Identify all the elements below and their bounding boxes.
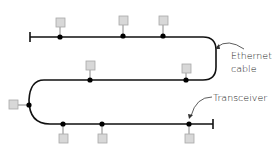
station-box	[98, 134, 107, 143]
transceiver-dot	[120, 33, 125, 38]
transceiver-dot	[183, 77, 188, 82]
station-3	[159, 16, 168, 39]
station-2	[119, 16, 128, 39]
station-box	[9, 100, 18, 109]
transceiver-dot	[57, 34, 62, 39]
transceiver-dot	[99, 121, 104, 126]
transceiver-dot	[160, 33, 165, 38]
station-box	[119, 16, 128, 25]
transceiver-arrow	[191, 97, 212, 116]
station-box	[159, 16, 168, 25]
transceiver-dot	[186, 121, 191, 126]
cable-label-line2: cable	[231, 63, 257, 74]
station-box	[182, 64, 191, 73]
transceiver-dot	[26, 102, 31, 107]
cable-label-line1: Ethernet	[231, 50, 272, 61]
ethernet-bus-diagram: Ethernet cable Transceiver	[0, 0, 277, 152]
station-box	[185, 134, 194, 143]
station-box	[59, 134, 68, 143]
cable-arrow	[217, 43, 244, 49]
station-6	[9, 100, 32, 109]
station-box	[56, 18, 65, 27]
transceiver-dot	[60, 121, 65, 126]
transceiver-dot	[87, 77, 92, 82]
transceiver-arrowhead-icon	[188, 114, 193, 119]
transceiver-label: Transceiver	[213, 92, 267, 103]
station-box	[86, 61, 95, 70]
